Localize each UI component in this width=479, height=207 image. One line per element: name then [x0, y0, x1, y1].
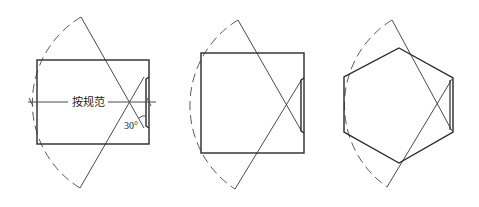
diagram-canvas: 按规范 30° [0, 0, 479, 207]
room-square [201, 53, 304, 153]
view-ray-top [81, 17, 144, 128]
room-hexagon [344, 48, 453, 163]
view-ray-top [238, 20, 302, 132]
angle-label: 30° [124, 120, 138, 131]
view-ray-bottom [235, 79, 302, 189]
figure-square [190, 20, 304, 189]
view-arc-dashed [190, 20, 238, 189]
view-arc-dashed [344, 20, 392, 187]
dimension-label: 按规范 [72, 95, 105, 109]
view-ray-top [392, 20, 452, 131]
figure-rectangle: 按规范 30° [28, 17, 156, 188]
view-ray-bottom [80, 77, 144, 188]
view-ray-bottom [387, 79, 452, 187]
figure-hexagon [344, 20, 453, 187]
angle-arc [139, 116, 146, 118]
